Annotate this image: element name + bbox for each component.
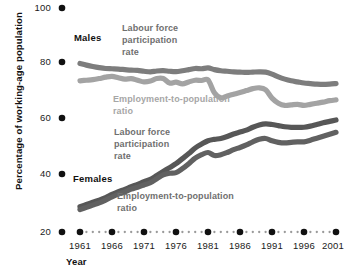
x-tick-label-1971: 1971 [133,240,155,251]
annotation-males-group: Males [74,32,101,43]
x-tick-label-1961: 1961 [69,240,91,251]
annotation-males-epr-l1: Employment-to-population [113,94,230,104]
x-tick-dot-minor [194,231,196,233]
x-tick-dot-major [77,229,84,236]
x-tick-dot-minor [245,231,247,233]
x-tick-dot-minor [156,231,158,233]
x-tick-dot-minor [232,231,234,233]
x-tick-dot-minor [200,231,202,233]
x-tick-dot-major [333,229,340,236]
x-tick-label-1991: 1991 [261,240,283,251]
y-tick-dot-60 [59,115,66,122]
y-tick-dot-100 [59,5,66,12]
x-tick-dot-minor [92,231,94,233]
annotation-males-lfp-l3: rate [122,47,139,57]
x-tick-dot-major [237,229,244,236]
x-tick-dot-major [109,229,116,236]
x-tick-dot-minor [322,231,324,233]
x-tick-dot-minor [252,231,254,233]
y-tick-label-40: 40 [40,168,51,179]
x-tick-dot-minor [328,231,330,233]
x-tick-dot-minor [316,231,318,233]
x-axis-tick-labels: 1961 1966 1971 1976 1981 1986 1991 1996 … [69,240,344,251]
line-chart: 100 80 60 40 20 Percentage of working-ag… [0,0,345,270]
x-tick-dot-minor [213,231,215,233]
x-tick-dot-minor [284,231,286,233]
x-tick-dot-minor [290,231,292,233]
x-tick-dot-minor [226,231,228,233]
x-tick-dot-minor [130,231,132,233]
x-axis-title: Year [66,256,87,267]
y-tick-label-20: 20 [40,226,51,237]
x-tick-label-1966: 1966 [101,240,123,251]
x-tick-dot-minor [258,231,260,233]
annotation-females-epr-l1: Employment-to-population [117,191,234,201]
series-annotations: MalesFemalesLabour forceparticipationrat… [73,23,234,213]
x-tick-label-1986: 1986 [229,240,251,251]
x-tick-label-1981: 1981 [197,240,219,251]
x-tick-label-1996: 1996 [293,240,315,251]
x-tick-dot-major [173,229,180,236]
x-tick-dot-minor [264,231,266,233]
y-tick-label-80: 80 [40,56,51,67]
y-axis: 100 80 60 40 20 [35,2,66,237]
chart-container: 100 80 60 40 20 Percentage of working-ag… [0,0,345,270]
x-tick-dot-minor [162,231,164,233]
annotation-males-lfp-l2: participation [122,35,177,45]
x-tick-dot-minor [149,231,151,233]
x-tick-dot-minor [98,231,100,233]
annotation-females-epr-l2: ratio [117,203,137,213]
annotation-males-lfp-l1: Labour force [122,23,178,33]
x-tick-dot-minor [168,231,170,233]
y-tick-dot-20 [59,229,66,236]
x-tick-dot-minor [104,231,106,233]
x-tick-dot-minor [181,231,183,233]
x-tick-dot-minor [277,231,279,233]
x-tick-label-1976: 1976 [165,240,187,251]
x-tick-dot-minor [309,231,311,233]
annotation-males-epr-l2: ratio [113,106,133,116]
x-tick-dot-minor [136,231,138,233]
x-tick-dot-major [301,229,308,236]
x-tick-dot-major [269,229,276,236]
x-tick-dot-major [205,229,212,236]
x-tick-dot-minor [124,231,126,233]
x-tick-dot-minor [117,231,119,233]
annotation-females-group: Females [73,173,112,184]
x-tick-dot-major [141,229,148,236]
annotation-females-lfp-l1: Labour force [114,127,170,137]
x-tick-dot-minor [85,231,87,233]
annotation-females-lfp-l2: participation [114,139,169,149]
x-tick-label-2001: 2001 [322,240,344,251]
y-tick-label-60: 60 [40,112,51,123]
x-tick-dot-minor [220,231,222,233]
annotation-females-lfp-l3: rate [114,151,131,161]
y-axis-title: Percentage of working-age population [13,12,24,190]
y-tick-dot-40 [59,171,66,178]
x-tick-dot-minor [296,231,298,233]
y-tick-label-100: 100 [35,2,51,13]
x-axis-dotted-line [77,229,340,236]
y-tick-dot-80 [59,59,66,66]
x-tick-dot-minor [188,231,190,233]
